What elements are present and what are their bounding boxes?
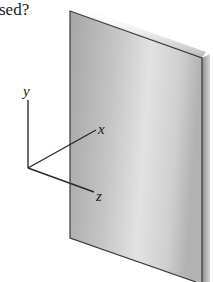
x-axis-label: x — [97, 121, 105, 137]
z-axis-label: z — [95, 188, 102, 204]
plate-face — [70, 11, 202, 282]
figure: sed? — [0, 0, 213, 282]
y-axis-label: y — [21, 83, 30, 99]
plate-diagram: y x z — [0, 0, 213, 282]
plate-side-edge — [202, 54, 210, 282]
